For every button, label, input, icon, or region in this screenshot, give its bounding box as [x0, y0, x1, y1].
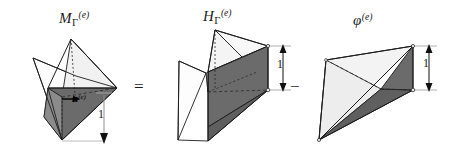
label-H-gamma-e: HΓ(e)	[203, 8, 232, 26]
minus-sign: −	[290, 78, 300, 95]
middle-edge-i	[178, 140, 208, 141]
equals-sign: =	[134, 78, 144, 95]
label-M-base: M	[59, 10, 72, 26]
label-M-gamma-e: MΓ(e)	[59, 10, 89, 28]
right-vertex-dot-left	[317, 138, 320, 141]
panel-middle-geometry	[178, 30, 291, 141]
normal-vector-superscript: (e)	[78, 93, 86, 100]
right-vertex-dot-bottom	[411, 88, 415, 92]
dimension-label-middle: 1	[277, 58, 283, 70]
figure-container: MΓ(e) HΓ(e) φ(e) = − n(e) 1 1 1	[0, 0, 449, 156]
middle-vertex-dot-bottom	[266, 88, 270, 92]
right-vertex-dot-top	[411, 44, 414, 47]
label-H-base: H	[203, 8, 214, 24]
label-phi-e: φ(e)	[353, 12, 372, 28]
label-M-superscript: (e)	[79, 10, 90, 20]
middle-wing-face	[178, 61, 206, 140]
dimension-label-right: 1	[423, 57, 429, 69]
right-vertex-dot-apex	[325, 59, 328, 62]
label-H-subscript: Γ	[214, 16, 220, 27]
label-H-superscript: (e)	[221, 8, 232, 18]
middle-vertex-dot-top	[266, 44, 269, 47]
label-phi-superscript: (e)	[362, 12, 373, 22]
label-phi-base: φ	[353, 12, 361, 28]
normal-vector-label: n(e)	[72, 93, 86, 104]
label-M-subscript: Γ	[72, 18, 78, 29]
panel-right-geometry	[317, 44, 437, 142]
dimension-label-left: 1	[98, 108, 104, 120]
